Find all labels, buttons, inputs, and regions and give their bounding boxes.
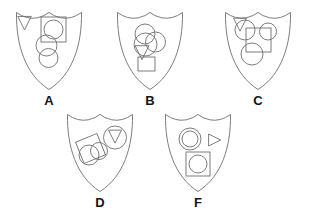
shield-outline-a	[16, 12, 82, 90]
square-bottom-shape	[186, 152, 210, 176]
shield-outline-f	[165, 114, 231, 192]
circle-left-shape	[79, 145, 99, 165]
circle-right-shape	[146, 32, 166, 52]
shield-border	[67, 114, 132, 191]
triangle-in-circle-shape	[109, 130, 122, 143]
shield-d[interactable]: D	[67, 114, 133, 214]
circle-top-right-shape	[104, 126, 127, 149]
shield-a[interactable]: A	[16, 12, 82, 112]
shield-c[interactable]: C	[225, 12, 291, 112]
circle-middle-shape	[36, 35, 57, 56]
shield-outline-b	[117, 12, 183, 90]
shield-border	[16, 12, 81, 89]
square-bottom-shape	[138, 57, 155, 71]
shield-border	[225, 12, 290, 89]
circle-inner-shape	[182, 131, 198, 147]
shield-label-d: D	[67, 196, 133, 210]
shield-outline-d	[67, 114, 133, 192]
circle-lower-shape	[39, 49, 58, 68]
circle-upper-left-shape	[135, 24, 155, 44]
shield-label-c: C	[225, 94, 291, 108]
triangle-right-shape	[209, 134, 221, 146]
shield-label-a: A	[16, 94, 82, 108]
shield-outline-c	[225, 12, 291, 90]
circle-top-left-shape	[235, 20, 255, 40]
shield-label-b: B	[117, 94, 183, 108]
circle-in-square-shape	[189, 155, 207, 173]
shield-label-f: F	[165, 196, 231, 210]
shield-border	[117, 12, 182, 89]
circle-bottom-shape	[241, 43, 263, 65]
circle-top-right-shape	[260, 23, 277, 40]
shield-figure-board: ABCDF	[0, 0, 314, 224]
shield-border	[165, 114, 230, 191]
shield-f[interactable]: F	[165, 114, 231, 214]
circle-in-square-shape	[44, 20, 63, 39]
shield-b[interactable]: B	[117, 12, 183, 112]
